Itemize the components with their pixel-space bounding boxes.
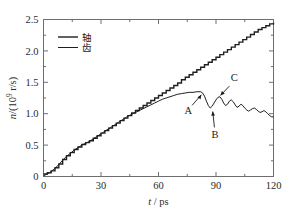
y-tick-label: 2.5: [25, 14, 38, 25]
line-chart: 00.51.01.52.02.5 0306090120 ABC 轴齿 t / p…: [0, 0, 291, 215]
y-tick-label: 1.5: [25, 77, 38, 88]
y-tick-label: 0.5: [25, 140, 38, 151]
legend-label-1: 轴: [82, 32, 92, 43]
y-tick-label: 1.0: [25, 108, 38, 119]
y-tick-label: 2.0: [25, 46, 38, 57]
x-tick-label: 30: [96, 180, 107, 191]
annotation-label-B: B: [212, 129, 219, 140]
legend-label-2: 齿: [82, 42, 92, 53]
x-tick-label: 120: [266, 180, 282, 191]
x-tick-label: 90: [211, 180, 222, 191]
x-axis-title: t / ps: [148, 196, 168, 207]
figure-container: 00.51.01.52.02.5 0306090120 ABC 轴齿 t / p…: [0, 0, 291, 215]
annotation-label-A: A: [184, 105, 192, 116]
x-tick-label: 60: [153, 180, 164, 191]
x-tick-label: 0: [41, 180, 46, 191]
y-axis-title: n/(109 r/s): [6, 76, 19, 119]
annotation-label-C: C: [231, 72, 238, 83]
y-tick-label: 0: [33, 171, 38, 182]
